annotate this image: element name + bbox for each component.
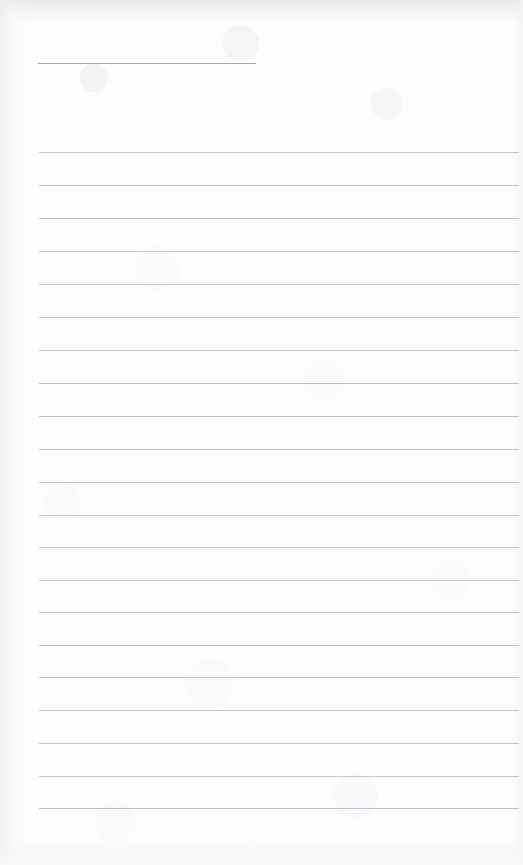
rule-line — [39, 808, 519, 809]
rule-line — [39, 383, 519, 384]
rule-line — [39, 547, 519, 548]
rule-line — [39, 743, 519, 744]
rule-line — [39, 449, 519, 450]
scanned-page — [0, 0, 523, 865]
rule-line — [39, 185, 519, 186]
rule-line — [39, 677, 519, 678]
rule-line — [39, 776, 519, 777]
text-line — [43, 130, 515, 152]
text-line — [43, 590, 515, 612]
text-line — [43, 525, 515, 547]
rule-line — [39, 515, 519, 516]
text-line — [43, 754, 515, 776]
rule-line — [39, 350, 519, 351]
rule-line — [39, 152, 519, 153]
rule-line — [39, 482, 519, 483]
header-rule-line — [38, 63, 256, 64]
rule-line — [39, 710, 519, 711]
text-line — [43, 361, 515, 383]
text-line — [43, 196, 515, 218]
text-line — [43, 688, 515, 710]
text-line — [43, 229, 515, 251]
text-line — [43, 427, 515, 449]
text-line — [43, 394, 515, 416]
text-line — [43, 262, 515, 284]
rule-line — [39, 416, 519, 417]
text-line — [43, 493, 515, 515]
rule-line — [39, 317, 519, 318]
text-line — [43, 721, 515, 743]
text-line — [43, 328, 515, 350]
rule-line — [39, 218, 519, 219]
text-line — [43, 655, 515, 677]
text-line — [43, 295, 515, 317]
rule-line — [39, 645, 519, 646]
text-line — [43, 623, 515, 645]
rule-line — [39, 580, 519, 581]
text-line — [43, 558, 515, 580]
text-line — [43, 163, 515, 185]
text-line — [43, 460, 515, 482]
rule-line — [39, 612, 519, 613]
rule-line — [39, 284, 519, 285]
text-line — [43, 786, 515, 808]
rule-line — [39, 251, 519, 252]
